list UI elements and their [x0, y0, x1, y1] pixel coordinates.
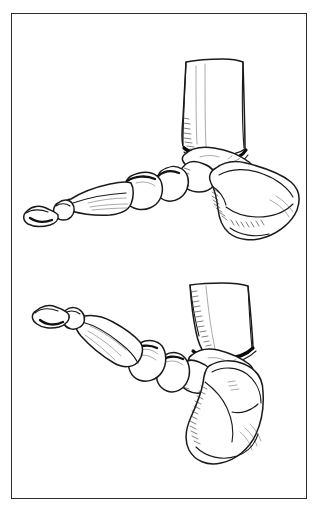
panel-upper-foot-neutral [24, 59, 299, 240]
phalanx-bone-lower [32, 306, 69, 328]
panel-lower-foot-plantarflexed [32, 283, 263, 464]
illustration-page: Foot and ankle skeletal illustration [0, 0, 319, 515]
metatarsal-bone-upper [54, 182, 134, 220]
metatarsal-bone-lower [62, 308, 142, 367]
tibia-bone-lower [190, 283, 253, 359]
calcaneus-bone-upper [210, 162, 299, 240]
foot-skeleton-illustration [0, 0, 319, 515]
tibia-bone-upper [182, 59, 245, 155]
